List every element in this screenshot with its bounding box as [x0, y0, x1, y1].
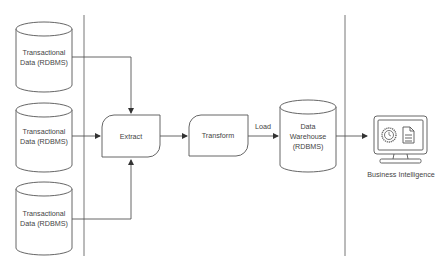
source-database-2: Transactional Data (RDBMS) — [16, 103, 72, 172]
extract-step: Extract — [102, 115, 160, 157]
warehouse-label-line3: (RDBMS) — [293, 142, 324, 151]
source-3-label-line2: Data (RDBMS) — [20, 219, 68, 228]
extract-label: Extract — [120, 132, 142, 141]
business-intelligence-label: Business Intelligence — [367, 170, 435, 179]
source-1-label-line1: Transactional — [23, 48, 66, 57]
warehouse-label-line2: Warehouse — [290, 132, 327, 141]
source-2-label-line1: Transactional — [23, 127, 66, 136]
source-2-label-line2: Data (RDBMS) — [20, 137, 68, 146]
source-1-label-line2: Data (RDBMS) — [20, 58, 68, 67]
transform-step: Transform — [189, 115, 248, 156]
warehouse-label-line1: Data — [300, 122, 315, 131]
etl-diagram: Transactional Data (RDBMS) Transactional… — [0, 0, 444, 271]
transform-label: Transform — [202, 131, 234, 140]
source-database-1: Transactional Data (RDBMS) — [16, 22, 72, 92]
source-3-label-line1: Transactional — [23, 209, 66, 218]
source-database-3: Transactional Data (RDBMS) — [16, 182, 72, 255]
monitor-icon — [374, 116, 427, 163]
load-label: Load — [255, 122, 271, 131]
connector-source3-extract — [72, 160, 131, 219]
connector-source1-extract — [72, 57, 131, 113]
data-warehouse-database: Data Warehouse (RDBMS) — [280, 100, 336, 172]
